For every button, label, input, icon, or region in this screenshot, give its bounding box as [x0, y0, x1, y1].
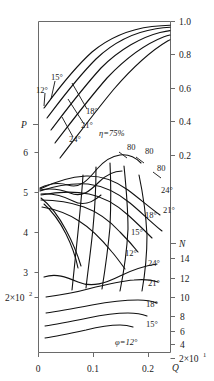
- right-tick-exponent: 2×10: [179, 354, 199, 364]
- chart-figure: P 6 5 4 3 2×10 2 1.0 0.8 0.6 0.4 0.2 N 1…: [0, 0, 214, 381]
- mid-label-18deg: 18°: [145, 210, 157, 220]
- x-tick-0-1: 0.1: [87, 364, 99, 374]
- eta-75-label: η=75%: [99, 128, 125, 138]
- right-tick-0-8: 0.8: [179, 50, 191, 60]
- right-tick-8: 8: [180, 312, 185, 322]
- axis-label-P: P: [20, 120, 27, 130]
- axis-label-Q: Q: [172, 363, 179, 373]
- eff-80-label-c: 80: [157, 163, 166, 173]
- left-tick-6: 6: [23, 148, 28, 158]
- right-tick-6: 6: [180, 327, 185, 337]
- eff-80-label-b: 80: [145, 146, 154, 156]
- mid-label-12deg: 12°: [125, 248, 137, 258]
- axis-label-N: N: [178, 239, 186, 249]
- left-tick-exponent: 2×10: [5, 293, 25, 303]
- upper-label-12deg: 12°: [36, 85, 48, 95]
- right-tick-4: 4: [180, 340, 185, 350]
- x-tick-0-2: 0.2: [142, 364, 154, 374]
- pump-performance-chart: P 6 5 4 3 2×10 2 1.0 0.8 0.6 0.4 0.2 N 1…: [0, 0, 214, 381]
- left-tick-4: 4: [23, 228, 28, 238]
- left-tick-5: 5: [23, 188, 28, 198]
- left-tick-3: 3: [23, 268, 28, 278]
- upper-label-21deg: 21°: [81, 120, 93, 130]
- right-tick-14: 14: [180, 254, 190, 264]
- lower-label-24deg: 24°: [148, 258, 160, 268]
- lower-label-21deg: 21°: [148, 278, 160, 288]
- right-tick-12: 12: [180, 274, 190, 284]
- right-tick-0-4: 0.4: [179, 117, 191, 127]
- right-tick-10: 10: [180, 293, 190, 303]
- left-tick-exponent-sup: 2: [29, 290, 32, 297]
- phi-legend-label: φ=12°: [115, 337, 138, 347]
- eff-80-label-a: 80: [127, 142, 136, 152]
- mid-label-21deg: 21°: [163, 205, 175, 215]
- right-tick-1-0: 1.0: [179, 17, 191, 27]
- mid-label-24deg: 24°: [161, 185, 173, 195]
- lower-label-18deg: 18°: [146, 299, 158, 309]
- upper-label-24deg: 24°: [69, 134, 81, 144]
- right-tick-exponent-sup: 1: [203, 351, 206, 358]
- x-tick-0: 0: [36, 364, 41, 374]
- lower-label-15deg: 15°: [146, 319, 158, 329]
- right-tick-0-6: 0.6: [179, 84, 191, 94]
- upper-label-15deg: 15°: [51, 72, 63, 82]
- upper-label-18deg: 18°: [86, 106, 98, 116]
- right-tick-0-2: 0.2: [179, 151, 191, 161]
- mid-label-15deg: 15°: [131, 227, 143, 237]
